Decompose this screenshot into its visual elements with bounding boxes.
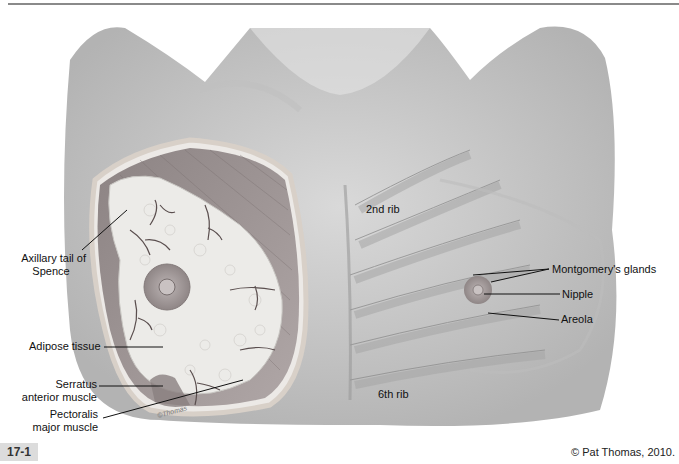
label-line: Axillary tail of	[16, 252, 86, 265]
label-adipose-tissue: Adipose tissue	[29, 340, 101, 353]
nipple-right	[473, 285, 483, 295]
label-line: Pectoralis	[20, 408, 98, 421]
nipple-left	[159, 279, 175, 295]
label-line: Spence	[16, 265, 86, 278]
label-areola: Areola	[561, 313, 593, 326]
copyright-credit: © Pat Thomas, 2010.	[571, 446, 675, 458]
label-montgomerys-glands: Montgomery's glands	[552, 263, 656, 276]
label-nipple: Nipple	[562, 288, 593, 301]
label-2nd-rib: 2nd rib	[366, 203, 400, 216]
breast-anatomy-illustration: ©Thomas	[0, 0, 679, 464]
label-line: Serratus	[15, 378, 97, 391]
label-6th-rib: 6th rib	[378, 388, 409, 401]
figure-number: 17-1	[0, 443, 38, 461]
label-axillary-tail: Axillary tail of Spence	[16, 252, 86, 278]
label-pectoralis: Pectoralis major muscle	[20, 408, 98, 434]
label-line: major muscle	[20, 421, 98, 434]
label-serratus: Serratus anterior muscle	[15, 378, 97, 404]
label-line: anterior muscle	[15, 391, 97, 404]
